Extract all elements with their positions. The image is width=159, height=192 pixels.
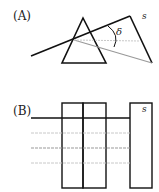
deviated-ray [74, 40, 152, 63]
deviation-arc [108, 26, 116, 47]
undeviated-ray [74, 40, 140, 41]
screen-a [130, 16, 152, 63]
panel-b [31, 103, 152, 188]
slab-1 [62, 103, 83, 188]
screen-b [130, 103, 152, 188]
diagram [0, 0, 159, 192]
panel-a [31, 16, 152, 63]
slab-2 [83, 103, 106, 188]
